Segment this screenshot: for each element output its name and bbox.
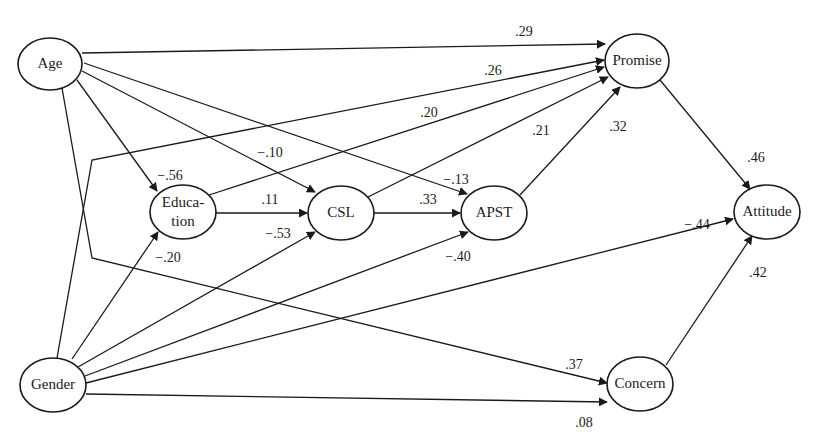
coef-age-to-concern: .37 [565,357,583,372]
coef-csl-to-promise: .21 [532,123,550,138]
edge-concern-to-attitude [666,236,752,365]
coef-age-to-apst: −.13 [443,172,468,187]
coef-gender-to-education: −.20 [155,250,180,265]
coef-promise-to-attitude: .46 [747,150,765,165]
coef-education-to-promise: .20 [420,105,438,120]
coef-education-to-csl: .11 [262,192,279,207]
edge-apst-to-promise [520,87,620,195]
node-apst: APST [461,186,527,240]
node-gender-label: Gender [31,376,75,392]
node-promise-label: Promise [612,52,662,68]
node-education-label: tion [171,213,195,229]
edge-gender-to-concern [86,394,607,402]
node-csl: CSL [308,186,374,240]
node-concern: Concern [607,357,673,411]
coef-gender-to-apst: −.40 [445,249,470,264]
edge-gender-to-csl [78,232,315,367]
node-gender: Gender [20,358,86,412]
coef-apst-to-promise: .32 [609,119,627,134]
nodes-layer: AgeGenderEduca-tionCSLAPSTPromiseAttitud… [18,34,800,412]
node-age-label: Age [38,55,63,71]
edge-labels-layer: .29.26.20.21.32−.56−.10−.13.11.33−.20−.5… [155,24,766,430]
node-education-label: Educa- [162,194,204,210]
node-attitude-label: Attitude [742,203,792,219]
node-csl-label: CSL [327,204,355,220]
edge-age-to-promise [82,44,605,53]
node-attitude: Attitude [734,185,800,239]
node-apst-label: APST [476,204,513,220]
edge-gender-to-education [72,232,158,359]
coef-age-to-education: −.56 [157,168,182,183]
coef-age-to-promise: .29 [515,24,533,39]
coef-age-to-csl: −.10 [257,145,282,160]
node-promise: Promise [605,34,669,88]
path-diagram: AgeGenderEduca-tionCSLAPSTPromiseAttitud… [0,0,834,442]
edge-age-to-apst [84,63,467,194]
coef-concern-to-attitude: .42 [749,265,767,280]
edge-promise-to-attitude [660,80,750,189]
coef-gender-to-concern: .08 [575,415,593,430]
edge-csl-to-promise [368,77,608,197]
coef-csl-to-apst: .33 [419,192,437,207]
node-education: Educa-tion [150,185,216,239]
coef-gender-to-csl: −.53 [265,226,290,241]
node-age: Age [18,38,82,90]
node-concern-label: Concern [615,375,666,391]
coef-gender-to-attitude: −.44 [684,217,709,232]
edge-age-to-csl [82,71,315,192]
coef-gender-to-promise: .26 [484,63,502,78]
